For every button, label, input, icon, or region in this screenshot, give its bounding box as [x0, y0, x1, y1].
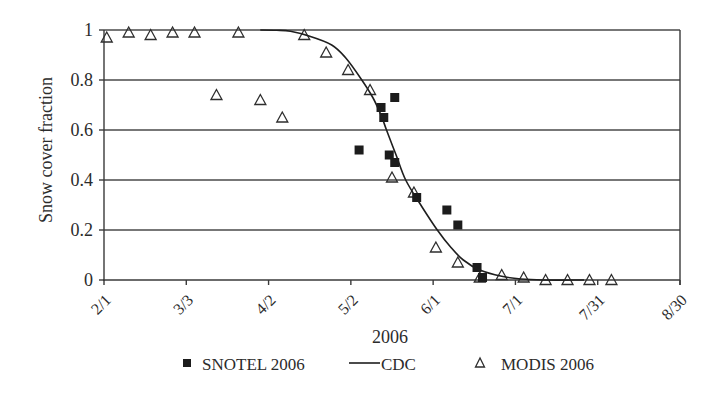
x-axis-title: 2006 [372, 327, 408, 347]
y-axis-title: Snow cover fraction [36, 77, 56, 223]
snotel-data-point [453, 221, 462, 230]
open-triangle-marker-icon [476, 358, 485, 367]
y-tick-label: 1 [84, 20, 93, 40]
snotel-data-point [390, 93, 399, 102]
modis-data-point [123, 27, 134, 37]
modis-data-point [277, 112, 288, 122]
x-tick-label: 4/2 [252, 291, 278, 317]
legend-label: CDC [381, 355, 416, 374]
legend-label: MODIS 2006 [501, 355, 594, 374]
modis-data-point [321, 47, 332, 57]
x-tick-label: 6/1 [417, 291, 443, 317]
legend-item-cdc: CDC [349, 355, 416, 374]
modis-data-point [496, 270, 507, 280]
x-tick-label: 8/30 [658, 291, 690, 323]
modis-data-point [145, 30, 156, 40]
modis-data-point [167, 27, 178, 37]
x-tick-label: 3/3 [170, 291, 196, 317]
x-tick-label: 7/1 [499, 291, 525, 317]
filled-square-marker-icon [183, 359, 191, 367]
y-tick-label: 0.8 [71, 70, 94, 90]
snow-cover-chart: 00.20.40.60.81 2/13/34/25/26/17/17/318/3… [0, 0, 726, 397]
modis-data-point [233, 27, 244, 37]
x-axis-tick-labels: 2/13/34/25/26/17/17/318/30 [88, 291, 690, 323]
y-tick-label: 0.2 [71, 220, 94, 240]
legend-label: SNOTEL 2006 [202, 355, 305, 374]
gridlines [104, 30, 680, 230]
snotel-data-point [442, 206, 451, 215]
modis-data-point [211, 90, 222, 100]
y-axis-tick-labels: 00.20.40.60.81 [71, 20, 94, 290]
legend-item-snotel: SNOTEL 2006 [183, 355, 305, 374]
y-tick-label: 0 [84, 270, 93, 290]
modis-data-point [255, 95, 266, 105]
modis-data-point [101, 32, 112, 42]
x-tick-label: 5/2 [334, 291, 360, 317]
y-tick-label: 0.4 [71, 170, 94, 190]
cdc-series [260, 30, 584, 280]
legend: SNOTEL 2006 CDC MODIS 2006 [183, 355, 594, 374]
y-tick-label: 0.6 [71, 120, 94, 140]
cdc-curve [260, 30, 584, 280]
snotel-data-point [355, 146, 364, 155]
modis-data-point [189, 27, 200, 37]
snotel-2006-series [355, 93, 487, 282]
modis-2006-series [101, 27, 617, 285]
legend-item-modis: MODIS 2006 [476, 355, 595, 374]
x-tick-label: 7/31 [576, 291, 608, 323]
x-tick-label: 2/1 [88, 291, 114, 317]
snotel-data-point [478, 273, 487, 282]
modis-data-point [430, 242, 441, 252]
